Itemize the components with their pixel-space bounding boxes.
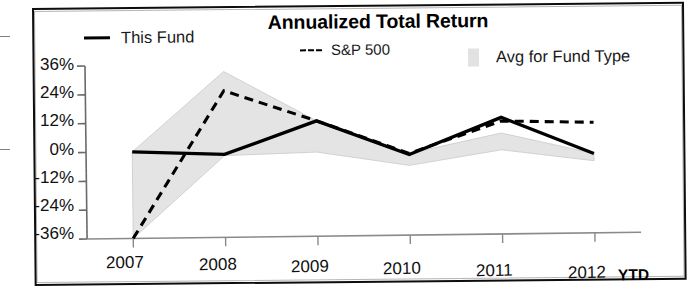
y-axis-tick-labels: 36% 24% 12% 0% -12% -24% -36% [18,0,74,302]
x-tick-label: 2011 [475,260,512,281]
y-tick-label: 0% [49,140,74,160]
legend-label-this-fund: This Fund [121,27,195,47]
chart-screenshot: Annualized Total Return This Fund S&P 50… [0,0,692,302]
y-tick-label: 24% [40,83,74,103]
y-tick-label: -12% [34,168,74,188]
band-swatch-icon [468,48,479,66]
dashed-line-swatch-icon [300,49,322,51]
legend-item-this-fund: This Fund [84,27,195,47]
x-axis-ytd-label: YTD [618,265,649,283]
x-tick-label: 2012 [568,262,606,283]
x-tick-label: 2009 [291,257,329,278]
legend-item-avg-fund-type: Avg for Fund Type [468,46,630,66]
x-axis-line [87,232,641,239]
y-tick-label: 12% [40,111,74,131]
legend-item-sp500: S&P 500 [300,41,390,59]
legend-label-sp500: S&P 500 [331,41,390,59]
chart-title: Annualized Total Return [228,9,528,35]
x-tick-label: 2007 [106,253,144,274]
solid-line-swatch-icon [84,36,110,39]
x-tick-label: 2008 [198,255,236,276]
y-tick-label: 36% [40,55,74,75]
y-tick-label: -24% [34,196,74,216]
x-tick-label: 2010 [383,258,421,279]
legend-label-avg-fund-type: Avg for Fund Type [496,46,630,66]
y-tick-label: -36% [34,224,74,244]
